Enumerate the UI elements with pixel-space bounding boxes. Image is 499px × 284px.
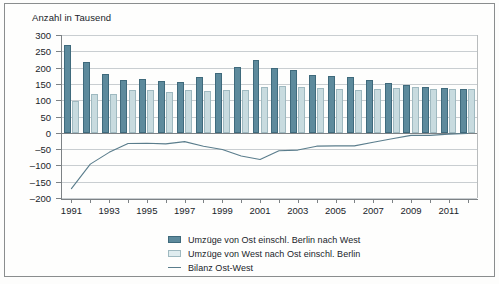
x-tick-mark — [449, 199, 450, 203]
legend-item-west-nach-ost: Umzüge von West nach Ost einschl. Berlin — [168, 247, 360, 260]
y-tick-label: –150 — [7, 176, 51, 187]
x-tick-mark — [241, 199, 242, 203]
x-tick-mark — [317, 199, 318, 203]
legend-swatch-line-icon — [168, 264, 181, 271]
x-tick-mark — [185, 199, 186, 203]
chart-legend: Umzüge von Ost einschl. Berlin nach West… — [168, 233, 360, 275]
y-tick-label: 50 — [7, 111, 51, 122]
x-tick-mark — [203, 199, 204, 203]
x-tick-label: 2009 — [400, 205, 421, 216]
legend-label-west-nach-ost: Umzüge von West nach Ost einschl. Berlin — [188, 249, 360, 259]
x-tick-mark — [279, 199, 280, 203]
x-tick-label: 2011 — [438, 205, 458, 216]
x-tick-label: 2007 — [363, 205, 384, 216]
x-tick-label: 2003 — [287, 205, 308, 216]
legend-item-ost-nach-west: Umzüge von Ost einschl. Berlin nach West — [168, 233, 360, 246]
legend-item-bilanz: Bilanz Ost-West — [168, 261, 360, 274]
balance-line-series — [62, 35, 477, 198]
x-tick-label: 1997 — [174, 205, 195, 216]
y-tick-label: –50 — [7, 144, 51, 155]
x-tick-label: 1995 — [136, 205, 157, 216]
y-tick-label: 0 — [7, 127, 51, 138]
x-tick-mark — [411, 199, 412, 203]
y-tick-label: –100 — [7, 160, 51, 171]
y-tick-label: 150 — [7, 78, 51, 89]
chart-title: Anzahl in Tausend — [32, 12, 111, 23]
x-tick-label: 2005 — [325, 205, 346, 216]
x-tick-mark — [109, 199, 110, 203]
x-tick-mark — [90, 199, 91, 203]
chart-panel: Anzahl in Tausend 300250200150100500–50–… — [4, 3, 495, 277]
x-tick-mark — [222, 199, 223, 203]
x-tick-mark — [166, 199, 167, 203]
x-tick-mark — [128, 199, 129, 203]
plot-right-border — [477, 35, 478, 198]
x-tick-label: 1991 — [61, 205, 82, 216]
y-tick-label: 250 — [7, 46, 51, 57]
x-tick-mark — [373, 199, 374, 203]
x-tick-mark — [298, 199, 299, 203]
y-tick-label: –200 — [7, 193, 51, 204]
y-tick-label: 300 — [7, 30, 51, 41]
y-tick-label: 100 — [7, 95, 51, 106]
x-tick-mark — [336, 199, 337, 203]
x-axis-line — [61, 199, 478, 200]
gridline — [62, 198, 477, 199]
x-tick-label: 2001 — [249, 205, 270, 216]
x-tick-mark — [260, 199, 261, 203]
y-tick-mark — [56, 198, 62, 199]
x-tick-mark — [147, 199, 148, 203]
y-tick-label: 200 — [7, 62, 51, 73]
x-tick-mark — [354, 199, 355, 203]
chart-screenshot: Anzahl in Tausend 300250200150100500–50–… — [0, 0, 499, 284]
x-tick-label: 1999 — [212, 205, 233, 216]
legend-swatch-dark-icon — [168, 236, 181, 243]
legend-label-bilanz: Bilanz Ost-West — [188, 263, 253, 273]
x-tick-mark — [392, 199, 393, 203]
legend-label-ost-nach-west: Umzüge von Ost einschl. Berlin nach West — [188, 235, 360, 245]
x-tick-mark — [71, 199, 72, 203]
legend-swatch-light-icon — [168, 250, 181, 257]
x-tick-mark — [430, 199, 431, 203]
x-tick-mark — [468, 199, 469, 203]
x-tick-label: 1993 — [99, 205, 120, 216]
